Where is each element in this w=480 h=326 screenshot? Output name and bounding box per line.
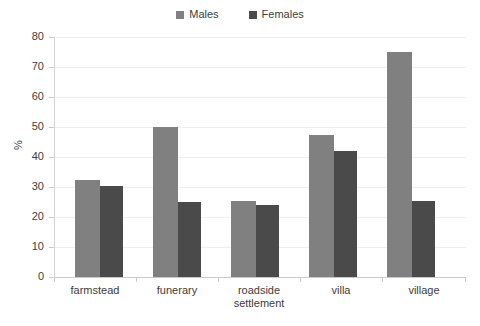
y-tick-label-70: 70: [14, 61, 44, 72]
x-tick-mark-3: [300, 277, 301, 282]
y-tick-label-10: 10: [14, 241, 44, 252]
chart-legend: Males Females: [0, 9, 480, 20]
bar-roadside-settlement-males[interactable]: [231, 201, 256, 278]
legend-item-males[interactable]: Males: [176, 9, 218, 20]
y-tick-label-40: 40: [14, 151, 44, 162]
x-category-label-roadside-settlement: roadside settlement: [218, 284, 300, 310]
legend-item-females[interactable]: Females: [249, 9, 304, 20]
y-axis-title: %: [12, 140, 24, 150]
x-category-label-farmstead: farmstead: [54, 284, 136, 297]
bar-funerary-females[interactable]: [178, 202, 201, 277]
legend-swatch-males: [176, 11, 184, 19]
x-category-label-funerary: funerary: [136, 284, 218, 297]
legend-label-males: Males: [189, 9, 218, 20]
x-category-label-roadside-settlement-line2: settlement: [218, 297, 300, 310]
plot-area: [54, 37, 466, 277]
bar-chart: Males Females % 80 70 60 50 40 30 20 10 …: [0, 0, 480, 326]
x-category-label-funerary-line1: funerary: [136, 284, 218, 297]
x-tick-mark-4: [382, 277, 383, 282]
bar-farmstead-females[interactable]: [100, 186, 123, 277]
gridline-80: [54, 37, 466, 38]
x-axis-line: [54, 277, 466, 278]
legend-label-females: Females: [262, 9, 304, 20]
y-axis-line: [54, 37, 55, 278]
bar-village-females[interactable]: [412, 201, 435, 277]
y-tick-label-0: 0: [14, 271, 44, 282]
y-tick-label-50: 50: [14, 121, 44, 132]
x-category-label-village: village: [382, 284, 466, 297]
x-tick-mark-1: [136, 277, 137, 282]
bar-village-males[interactable]: [387, 52, 412, 277]
bar-farmstead-males[interactable]: [75, 180, 100, 278]
x-tick-mark-5: [465, 277, 466, 282]
y-tick-label-20: 20: [14, 211, 44, 222]
y-tick-label-30: 30: [14, 181, 44, 192]
legend-swatch-females: [249, 11, 257, 19]
x-tick-mark-0: [54, 277, 55, 282]
x-category-label-villa: villa: [300, 284, 382, 297]
y-tick-label-60: 60: [14, 91, 44, 102]
x-category-label-villa-line1: villa: [300, 284, 382, 297]
x-category-label-farmstead-line1: farmstead: [54, 284, 136, 297]
x-category-label-roadside-settlement-line1: roadside: [218, 284, 300, 297]
x-category-label-village-line1: village: [382, 284, 466, 297]
bar-roadside-settlement-females[interactable]: [256, 205, 279, 277]
y-tick-label-80: 80: [14, 31, 44, 42]
bar-funerary-males[interactable]: [153, 127, 178, 277]
bar-villa-males[interactable]: [309, 135, 334, 278]
x-tick-mark-2: [218, 277, 219, 282]
bar-villa-females[interactable]: [334, 151, 357, 277]
